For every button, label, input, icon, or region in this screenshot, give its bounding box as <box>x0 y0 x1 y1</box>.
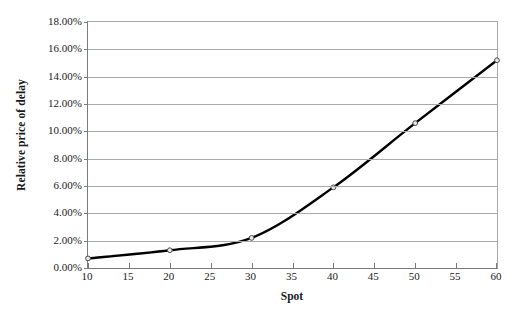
y-axis-tick <box>84 186 88 187</box>
x-axis-tick-label: 30 <box>245 270 256 282</box>
x-axis-tick-label: 55 <box>450 270 461 282</box>
y-axis-tick-label: 2.00% <box>30 234 82 245</box>
gridline-horizontal <box>88 241 497 242</box>
x-axis-tick-labels: 1015202530354045505560 <box>0 270 517 286</box>
x-axis-tick <box>415 263 416 268</box>
x-axis-tick-label: 20 <box>163 270 174 282</box>
gridline-horizontal <box>88 213 497 214</box>
x-axis-title: Spot <box>87 290 497 302</box>
y-axis-tick <box>84 22 88 23</box>
gridline-horizontal <box>88 131 497 132</box>
x-axis-tick-label: 40 <box>327 270 338 282</box>
gridline-horizontal <box>88 159 497 160</box>
x-axis-tick <box>129 263 130 268</box>
y-axis-tick <box>84 77 88 78</box>
x-axis-tick-label: 25 <box>204 270 215 282</box>
data-series-line <box>88 22 497 268</box>
gridline-horizontal <box>88 77 497 78</box>
x-axis-tick-label: 10 <box>82 270 93 282</box>
x-axis-tick-label: 45 <box>368 270 379 282</box>
y-axis-tick <box>84 241 88 242</box>
gridline-horizontal <box>88 49 497 50</box>
gridline-horizontal <box>88 186 497 187</box>
x-axis-tick-label: 15 <box>122 270 133 282</box>
y-axis-tick <box>84 213 88 214</box>
y-axis-tick <box>84 49 88 50</box>
x-axis-tick <box>333 263 334 268</box>
x-axis-tick <box>170 263 171 268</box>
gridline-horizontal <box>88 104 497 105</box>
chart-container: Relative price of delay 0.00%2.00%4.00%6… <box>0 0 517 317</box>
y-axis-tick-label: 6.00% <box>30 180 82 191</box>
x-axis-tick <box>456 263 457 268</box>
y-axis-title: Relative price of delay <box>10 0 32 270</box>
plot-area <box>87 21 498 269</box>
y-axis-tick-label: 8.00% <box>30 152 82 163</box>
x-axis-tick <box>88 263 89 268</box>
y-axis-tick-label: 12.00% <box>30 98 82 109</box>
data-point-marker <box>86 256 91 261</box>
x-axis-tick <box>252 263 253 268</box>
y-axis-tick-label: 16.00% <box>30 43 82 54</box>
data-point-marker <box>249 236 254 241</box>
data-point-marker <box>167 248 172 253</box>
y-axis-tick-label: 14.00% <box>30 70 82 81</box>
y-axis-tick <box>84 268 88 269</box>
x-axis-tick-label: 60 <box>491 270 502 282</box>
y-axis-tick-label: 4.00% <box>30 207 82 218</box>
y-axis-tick <box>84 131 88 132</box>
data-point-marker <box>495 58 500 63</box>
data-point-marker <box>413 121 418 126</box>
x-axis-tick-label: 35 <box>286 270 297 282</box>
x-axis-tick <box>496 263 497 268</box>
y-axis-title-text: Relative price of delay <box>15 79 27 191</box>
y-axis-tick-label: 10.00% <box>30 125 82 136</box>
x-axis-tick <box>293 263 294 268</box>
y-axis-tick <box>84 104 88 105</box>
y-axis-tick <box>84 159 88 160</box>
y-axis-tick-label: 18.00% <box>30 16 82 27</box>
x-axis-tick <box>374 263 375 268</box>
x-axis-tick-label: 50 <box>409 270 420 282</box>
x-axis-tick <box>211 263 212 268</box>
